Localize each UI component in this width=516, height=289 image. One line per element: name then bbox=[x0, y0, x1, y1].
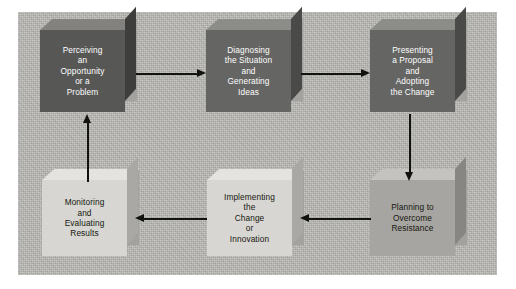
arrow-head-right-icon bbox=[361, 69, 370, 77]
node-label: Diagnosingthe SituationandGeneratingIdea… bbox=[222, 45, 275, 97]
node-implementing[interactable]: ImplementingtheChangeorInnovation bbox=[207, 180, 292, 256]
arrow-head-left-icon bbox=[135, 214, 144, 222]
arrow-line bbox=[136, 73, 198, 75]
arrow-line bbox=[301, 73, 362, 75]
arrow-head-up-icon bbox=[83, 114, 91, 123]
node-diagnosing[interactable]: Diagnosingthe SituationandGeneratingIdea… bbox=[206, 30, 291, 112]
node-front-face: Presentinga ProposalandAdoptingthe Chang… bbox=[370, 30, 455, 112]
node-front-face: Planning toOvercomeResistance bbox=[370, 180, 455, 256]
node-side-face bbox=[127, 157, 138, 245]
arrow-line bbox=[409, 114, 411, 173]
node-top-face bbox=[40, 19, 137, 30]
node-monitoring[interactable]: MonitoringandEvaluatingResults bbox=[42, 180, 127, 256]
node-top-face bbox=[370, 169, 467, 180]
node-label: PerceivinganOpportunityor aProblem bbox=[58, 45, 108, 97]
arrow-perceiving-to-diagnosing bbox=[136, 69, 206, 79]
arrow-head-left-icon bbox=[300, 214, 309, 222]
node-side-face bbox=[125, 7, 136, 101]
arrow-head-down-icon bbox=[405, 172, 413, 181]
node-front-face: Diagnosingthe SituationandGeneratingIdea… bbox=[206, 30, 291, 112]
arrow-diagnosing-to-presenting bbox=[301, 69, 371, 79]
arrow-planning-to-implementing bbox=[300, 214, 372, 224]
node-label: MonitoringandEvaluatingResults bbox=[62, 197, 108, 239]
node-label: Presentinga ProposalandAdoptingthe Chang… bbox=[388, 45, 438, 97]
node-top-face bbox=[206, 19, 303, 30]
node-front-face: PerceivinganOpportunityor aProblem bbox=[40, 30, 125, 112]
arrow-line bbox=[144, 218, 207, 220]
node-perceiving[interactable]: PerceivinganOpportunityor aProblem bbox=[40, 30, 125, 112]
node-label: Planning toOvercomeResistance bbox=[388, 202, 437, 233]
node-front-face: MonitoringandEvaluatingResults bbox=[42, 180, 127, 256]
arrow-head-right-icon bbox=[197, 69, 206, 77]
arrow-monitoring-to-perceiving bbox=[83, 114, 93, 182]
node-side-face bbox=[455, 157, 466, 245]
node-side-face bbox=[455, 7, 466, 101]
node-label: ImplementingtheChangeorInnovation bbox=[221, 192, 278, 244]
node-side-face bbox=[292, 157, 303, 245]
node-top-face bbox=[207, 169, 304, 180]
node-top-face bbox=[370, 19, 467, 30]
arrow-line bbox=[309, 218, 371, 220]
diagram-canvas: PerceivinganOpportunityor aProblem Diagn… bbox=[0, 0, 516, 289]
node-planning[interactable]: Planning toOvercomeResistance bbox=[370, 180, 455, 256]
node-presenting[interactable]: Presentinga ProposalandAdoptingthe Chang… bbox=[370, 30, 455, 112]
arrow-implementing-to-monitoring bbox=[135, 214, 207, 224]
node-side-face bbox=[291, 7, 302, 101]
arrow-presenting-to-planning bbox=[405, 114, 415, 182]
node-front-face: ImplementingtheChangeorInnovation bbox=[207, 180, 292, 256]
arrow-line bbox=[87, 122, 89, 182]
